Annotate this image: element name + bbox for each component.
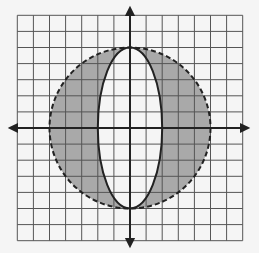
x-axis-arrow-left-icon (10, 125, 17, 132)
y-axis-arrow-up-icon (127, 8, 134, 15)
y-axis-arrow-down-icon (127, 239, 134, 246)
axes (10, 8, 248, 246)
x-axis-arrow-right-icon (241, 125, 248, 132)
graph-figure (0, 0, 259, 253)
